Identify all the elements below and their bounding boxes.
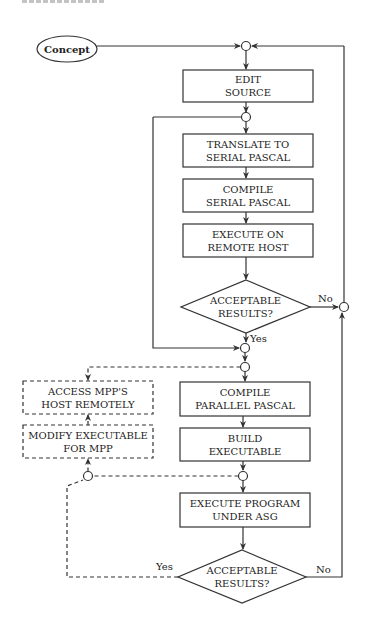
decision1-yes-label: Yes: [250, 333, 267, 344]
compile-parallel-label: COMPILE PARALLEL PASCAL: [180, 382, 310, 416]
compile-serial-label: COMPILE SERIAL PASCAL: [183, 179, 313, 212]
build-exec-label: BUILD EXECUTABLE: [180, 428, 310, 461]
access-mpp-line2: HOST REMOTELY: [41, 398, 134, 411]
junction-right: [340, 303, 349, 312]
execute-asg-line2: UNDER ASG: [212, 510, 277, 523]
edit-source-line1: EDIT: [235, 73, 261, 86]
translate-line1: TRANSLATE TO: [207, 138, 289, 151]
execute-remote-line1: EXECUTE ON: [212, 228, 284, 241]
translate-line2: SERIAL PASCAL: [206, 151, 290, 164]
decision2-yes-label: Yes: [156, 561, 173, 572]
execute-remote-label: EXECUTE ON REMOTE HOST: [183, 224, 313, 257]
modify-exec-line2: FOR MPP: [63, 442, 113, 455]
execute-remote-line2: REMOTE HOST: [208, 241, 289, 254]
decision1-no-label: No: [318, 293, 333, 304]
execute-asg-label: EXECUTE PROGRAM UNDER ASG: [180, 493, 310, 527]
build-exec-line1: BUILD: [228, 432, 262, 445]
junction-dashed-split: [241, 363, 250, 372]
compile-parallel-line2: PARALLEL PASCAL: [195, 399, 295, 412]
edit-source-line2: SOURCE: [225, 86, 271, 99]
build-exec-line2: EXECUTABLE: [209, 445, 281, 458]
decision1-line2: RESULTS?: [218, 307, 273, 320]
concept-text: Concept: [44, 43, 90, 56]
junction-build-out: [239, 472, 248, 481]
edit-source-label: EDIT SOURCE: [183, 70, 313, 102]
execute-asg-line1: EXECUTE PROGRAM: [190, 497, 300, 510]
modify-exec-line1: MODIFY EXECUTABLE: [28, 429, 148, 442]
junction-left-dashed: [84, 472, 93, 481]
translate-label: TRANSLATE TO SERIAL PASCAL: [183, 134, 313, 167]
concept-label: Concept: [37, 36, 97, 62]
decision1-line1: ACCEPTABLE: [210, 294, 281, 307]
access-mpp-label: ACCESS MPP'S HOST REMOTELY: [23, 381, 153, 414]
compile-serial-line2: SERIAL PASCAL: [206, 196, 290, 209]
compile-parallel-line1: COMPILE: [220, 386, 271, 399]
decision2-no-label: No: [316, 564, 331, 575]
decision1-label: ACCEPTABLE RESULTS?: [181, 280, 310, 333]
decision2-line1: ACCEPTABLE: [206, 564, 277, 577]
decision2-label: ACCEPTABLE RESULTS?: [178, 550, 306, 603]
compile-serial-line1: COMPILE: [223, 183, 274, 196]
modify-exec-label: MODIFY EXECUTABLE FOR MPP: [23, 425, 153, 458]
access-mpp-line1: ACCESS MPP'S: [48, 385, 128, 398]
junction-top: [242, 42, 251, 51]
junction-serial-loop: [242, 113, 251, 122]
decision2-line2: RESULTS?: [215, 577, 270, 590]
junction-yes1: [241, 344, 250, 353]
